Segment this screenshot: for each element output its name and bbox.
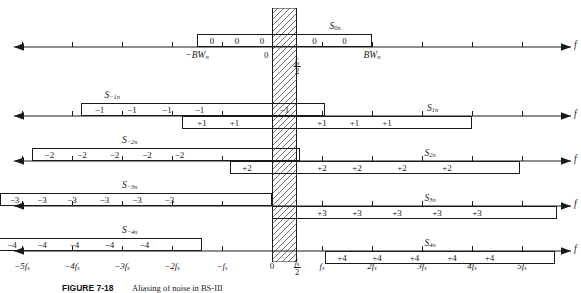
tick-label-3: 3fs	[417, 262, 426, 271]
band-value: 0	[260, 37, 265, 46]
band-value: −2	[142, 151, 152, 160]
band-value: 0	[342, 37, 347, 46]
band-value: −4	[140, 241, 150, 250]
tick-label-1: fs	[320, 262, 325, 271]
tick-mark	[72, 111, 73, 116]
tick-label-0: 0	[270, 262, 275, 271]
band-label-S1n: S1n	[427, 104, 438, 114]
tick-mark	[372, 42, 373, 47]
tick-label-fs-over-2: fs2	[294, 258, 301, 277]
band-label-S−3n: S−3n	[122, 181, 138, 191]
tick-mark	[472, 42, 473, 47]
marker-pos-bw: BWn	[364, 51, 381, 61]
tick-mark	[522, 156, 523, 161]
band-value: +4	[485, 254, 495, 263]
tick-label--5: −5fs	[14, 262, 29, 271]
band-value: +2	[442, 164, 452, 173]
band-value: −1	[195, 106, 205, 115]
band-value: −3	[67, 196, 77, 205]
nyquist-band	[272, 8, 297, 262]
band-value: +1	[317, 119, 327, 128]
band-value: −4	[105, 241, 115, 250]
band-box-S−4n	[0, 238, 202, 251]
band-box-S3n	[272, 206, 557, 219]
band-value: +1	[350, 119, 360, 128]
band-value: +1	[197, 119, 207, 128]
band-value: −1	[95, 106, 105, 115]
band-value: +1	[382, 119, 392, 128]
band-value: −4	[37, 241, 47, 250]
origin-label-row0: 0	[264, 51, 269, 60]
marker-neg-bw: −BWn	[185, 51, 208, 61]
band-value: 0	[235, 37, 240, 46]
band-value: −3	[132, 196, 142, 205]
band-label-S3n: S3n	[425, 194, 436, 204]
tick-label--3: −3fs	[114, 262, 129, 271]
band-value: −4	[7, 241, 17, 250]
tick-mark	[422, 42, 423, 47]
tick-mark	[22, 111, 23, 116]
band-value: −3	[165, 196, 175, 205]
band-value: −2	[45, 151, 55, 160]
tick-mark	[472, 111, 473, 116]
tick-label-5: 5fs	[517, 262, 526, 271]
band-label-S−2n: S−2n	[122, 136, 138, 146]
tick-mark	[222, 246, 223, 251]
tick-mark	[172, 42, 173, 47]
tick-mark	[22, 42, 23, 47]
tick-mark	[522, 111, 523, 116]
band-value: +4	[337, 254, 347, 263]
band-value: 0	[210, 37, 215, 46]
band-label-S0n: S0n	[330, 22, 341, 32]
tick-mark	[522, 42, 523, 47]
band-label-S−4n: S−4n	[122, 226, 138, 236]
tick-label-2: 2fs	[367, 262, 376, 271]
band-label-S2n: S2n	[425, 149, 436, 159]
axis-label-f-1: f	[574, 110, 577, 120]
band-value: −1	[162, 106, 172, 115]
axis-label-f-0: f	[574, 41, 577, 51]
band-label-S4n: S4n	[425, 239, 436, 249]
tick-label--4: −4fs	[64, 262, 79, 271]
figure-caption-text: Aliasing of noise in BS-III	[132, 283, 223, 293]
band-value: +4	[447, 254, 457, 263]
tick-label--2: −2fs	[164, 262, 179, 271]
axis-label-f-4: f	[574, 245, 577, 255]
band-value: +3	[472, 209, 482, 218]
tick-label--1: −fs	[217, 262, 228, 271]
tick-mark	[122, 42, 123, 47]
band-value: −3	[10, 196, 20, 205]
row0-fs-over-2-label: fs2	[294, 57, 301, 76]
band-value: +2	[397, 164, 407, 173]
band-value: +3	[317, 209, 327, 218]
axis-label-f-2: f	[574, 155, 577, 165]
band-value: −1	[127, 106, 137, 115]
band-label-S−1n: S−1n	[105, 91, 121, 101]
figure-caption-number: FIGURE 7-18	[62, 283, 114, 293]
band-value: −2	[77, 151, 87, 160]
band-value: +2	[352, 164, 362, 173]
tick-mark	[72, 42, 73, 47]
tick-mark	[322, 246, 323, 251]
band-value: +2	[317, 164, 327, 173]
band-box-S1n	[182, 116, 472, 129]
band-value: −2	[110, 151, 120, 160]
band-value: −4	[70, 241, 80, 250]
band-value: −3	[37, 196, 47, 205]
band-value: −3	[100, 196, 110, 205]
tick-mark	[22, 156, 23, 161]
band-value: +3	[392, 209, 402, 218]
band-box-S−2n	[32, 148, 300, 161]
band-value: +3	[432, 209, 442, 218]
band-value: −2	[175, 151, 185, 160]
tick-label-4: 4fs	[467, 262, 476, 271]
band-value: +2	[242, 164, 252, 173]
band-value: +3	[352, 209, 362, 218]
axis-label-f-3: f	[574, 200, 577, 210]
band-value: 0	[312, 37, 317, 46]
band-value: +1	[230, 119, 240, 128]
